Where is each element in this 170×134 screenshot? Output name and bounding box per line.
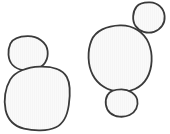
blob-right-lower: Right lower small oval blob: [106, 89, 138, 116]
blob-right-main: Right large central blob: [89, 25, 152, 92]
blob-left-lower: Left lower large rounded-square blob: [5, 67, 70, 131]
drawing-canvas: Left upper small blobLeft lower large ro…: [0, 0, 170, 134]
blob-left-upper: Left upper small blob: [8, 36, 47, 70]
blob-right-upper: Right upper tilted oval blob: [133, 2, 165, 32]
blob-figure: Left upper small blobLeft lower large ro…: [0, 0, 170, 134]
